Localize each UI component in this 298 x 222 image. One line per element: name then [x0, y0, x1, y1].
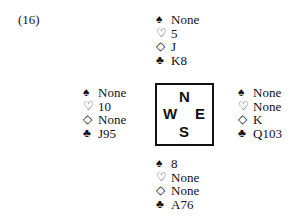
south-spades-row: ♠ 8	[156, 157, 199, 171]
spade-icon: ♠	[156, 157, 171, 171]
club-icon: ♣	[156, 54, 171, 68]
club-icon: ♣	[83, 127, 98, 141]
west-spades: None	[98, 86, 126, 100]
compass-west: W	[163, 105, 177, 122]
compass-north: N	[179, 88, 190, 105]
heart-icon: ♡	[83, 100, 98, 114]
north-hand: ♠ None ♡ 5 ◇ J ♣ K8	[156, 13, 199, 67]
club-icon: ♣	[156, 198, 171, 212]
south-clubs: A76	[171, 198, 193, 212]
south-hearts-row: ♡ None	[156, 171, 199, 185]
west-hand: ♠ None ♡ 10 ◇ None ♣ J95	[83, 86, 126, 140]
south-clubs-row: ♣ A76	[156, 198, 199, 212]
east-hearts-row: ♡ None	[238, 100, 282, 114]
diamond-icon: ◇	[156, 184, 171, 198]
north-hearts: 5	[171, 27, 178, 41]
spade-icon: ♠	[83, 86, 98, 100]
east-hand: ♠ None ♡ None ◇ K ♣ Q103	[238, 86, 282, 140]
heart-icon: ♡	[156, 27, 171, 41]
west-spades-row: ♠ None	[83, 86, 126, 100]
heart-icon: ♡	[238, 100, 253, 114]
south-hearts: None	[171, 171, 199, 185]
south-diamonds: None	[171, 184, 199, 198]
south-diamonds-row: ◇ None	[156, 184, 199, 198]
east-diamonds-row: ◇ K	[238, 113, 282, 127]
spade-icon: ♠	[156, 13, 171, 27]
west-clubs: J95	[98, 127, 116, 141]
north-clubs: K8	[171, 54, 187, 68]
east-clubs-row: ♣ Q103	[238, 127, 282, 141]
compass-south: S	[179, 123, 189, 140]
compass-box: N W E S	[155, 83, 214, 146]
east-spades-row: ♠ None	[238, 86, 282, 100]
west-hearts: 10	[98, 100, 111, 114]
north-clubs-row: ♣ K8	[156, 54, 199, 68]
compass-east: E	[195, 105, 205, 122]
diamond-icon: ◇	[156, 40, 171, 54]
diamond-icon: ◇	[238, 113, 253, 127]
east-clubs: Q103	[253, 127, 282, 141]
south-hand: ♠ 8 ♡ None ◇ None ♣ A76	[156, 157, 199, 211]
north-spades: None	[171, 13, 199, 27]
north-diamonds-row: ◇ J	[156, 40, 199, 54]
spade-icon: ♠	[238, 86, 253, 100]
west-clubs-row: ♣ J95	[83, 127, 126, 141]
east-diamonds: K	[253, 113, 262, 127]
west-hearts-row: ♡ 10	[83, 100, 126, 114]
north-spades-row: ♠ None	[156, 13, 199, 27]
club-icon: ♣	[238, 127, 253, 141]
north-hearts-row: ♡ 5	[156, 27, 199, 41]
east-spades: None	[253, 86, 281, 100]
west-diamonds: None	[98, 113, 126, 127]
problem-number: (16)	[18, 12, 40, 28]
east-hearts: None	[253, 100, 281, 114]
west-diamonds-row: ◇ None	[83, 113, 126, 127]
north-diamonds: J	[171, 40, 176, 54]
diamond-icon: ◇	[83, 113, 98, 127]
south-spades: 8	[171, 157, 178, 171]
heart-icon: ♡	[156, 171, 171, 185]
